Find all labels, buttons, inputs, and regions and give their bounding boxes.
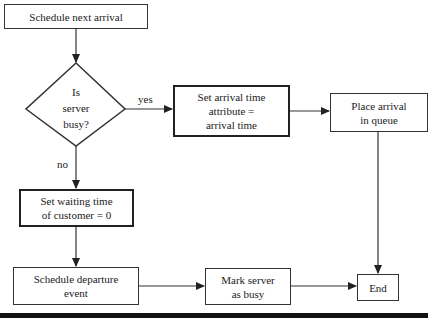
node-label: End — [369, 281, 387, 295]
node-label: as busy — [232, 287, 265, 301]
decision-line: server — [40, 100, 112, 116]
node-label: in queue — [360, 113, 398, 127]
node-label: of customer = 0 — [42, 208, 111, 222]
node-label: Schedule next arrival — [29, 10, 122, 24]
node-label: attribute = — [209, 104, 255, 118]
node-label: event — [64, 286, 88, 300]
schedule-next-arrival-node: Schedule next arrival — [4, 4, 148, 29]
node-label: Set arrival time — [198, 90, 266, 104]
node-label: Set waiting time — [40, 194, 112, 208]
decision-line: Is — [40, 84, 112, 100]
end-node: End — [357, 274, 399, 301]
bottom-rule — [0, 313, 428, 318]
schedule-departure-node: Schedule departure event — [13, 267, 139, 305]
edge-label-yes: yes — [138, 93, 153, 105]
edge-label-no: no — [57, 158, 68, 170]
place-arrival-node: Place arrival in queue — [330, 93, 428, 132]
set-waiting-time-node: Set waiting time of customer = 0 — [19, 189, 134, 227]
node-label: Mark server — [221, 273, 274, 287]
set-arrival-time-node: Set arrival time attribute = arrival tim… — [173, 85, 290, 137]
node-label: Place arrival — [351, 99, 406, 113]
mark-server-busy-node: Mark server as busy — [205, 268, 291, 305]
node-label: Schedule departure — [34, 272, 119, 286]
node-label: arrival time — [206, 118, 257, 132]
decision-node: Is server busy? — [40, 84, 112, 132]
decision-line: busy? — [40, 116, 112, 132]
